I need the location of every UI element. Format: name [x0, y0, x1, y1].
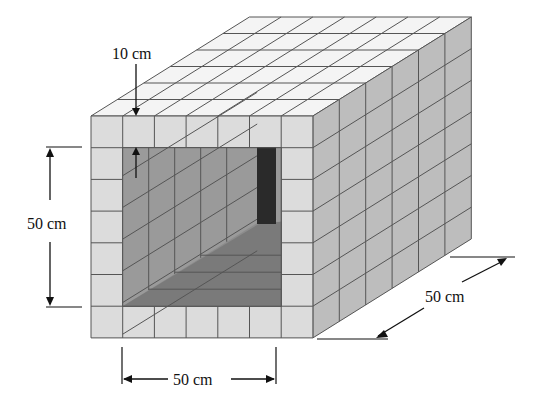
tunnel-diagram: 10 cm 50 cm 50 cm 50 cm: [0, 0, 542, 406]
inner-height-label: 50 cm: [27, 215, 67, 232]
dark-slot: [257, 147, 276, 224]
inner-width-label: 50 cm: [173, 371, 213, 388]
arrowhead-icon: [46, 297, 54, 306]
wall-thickness-label: 10 cm: [112, 45, 152, 62]
depth-label: 50 cm: [425, 288, 465, 305]
depth-arrow-back: [462, 260, 505, 282]
arrowhead-icon: [46, 148, 54, 157]
arrowhead-icon: [497, 258, 507, 266]
arrowhead-icon: [266, 375, 275, 383]
cube-structure: [91, 17, 471, 338]
arrowhead-icon: [123, 375, 132, 383]
